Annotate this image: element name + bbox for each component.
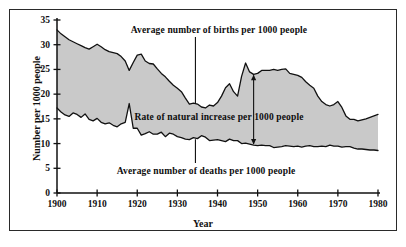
natural-increase-band	[57, 30, 378, 151]
x-axis-tick-label: 1960	[288, 199, 307, 209]
x-axis-tick-label: 1900	[48, 199, 67, 209]
annotation-births-label: Average number of births per 1000 people	[131, 25, 307, 35]
y-axis-tick-label: 15	[14, 114, 50, 124]
chart-plot-area	[0, 0, 406, 247]
y-axis-tick-label: 5	[14, 163, 50, 173]
x-axis-tick-label: 1920	[128, 199, 147, 209]
annotation-natural-increase-label: Rate of natural increase per 1000 people	[134, 112, 303, 122]
x-axis-tick-label: 1910	[88, 199, 107, 209]
figure-container: Number per 1000 people Year Average numb…	[0, 0, 406, 247]
y-axis-tick-label: 30	[14, 40, 50, 50]
x-axis-tick-label: 1940	[208, 199, 227, 209]
x-axis-tick-label: 1950	[248, 199, 267, 209]
y-axis-tick-label: 0	[14, 188, 50, 198]
y-axis-tick-label: 35	[14, 15, 50, 25]
annotation-deaths-label: Average number of deaths per 1000 people	[117, 166, 296, 176]
y-axis-tick-label: 20	[14, 89, 50, 99]
x-axis-title: Year	[0, 218, 406, 229]
x-axis-tick-label: 1980	[369, 199, 388, 209]
y-axis-title: Number per 1000 people	[31, 34, 42, 184]
x-axis-tick-label: 1930	[168, 199, 187, 209]
x-axis-tick-label: 1970	[328, 199, 347, 209]
y-axis-tick-label: 10	[14, 139, 50, 149]
y-axis-tick-label: 25	[14, 64, 50, 74]
